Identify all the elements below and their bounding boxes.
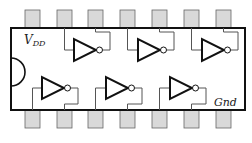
orientation-notch bbox=[11, 58, 25, 86]
inverter-5 bbox=[106, 77, 128, 99]
inverter-4 bbox=[42, 77, 64, 99]
pin-6 bbox=[184, 110, 199, 128]
pin-13 bbox=[57, 10, 72, 28]
pin-3 bbox=[88, 110, 103, 128]
pin-14 bbox=[25, 10, 40, 28]
pin-12 bbox=[88, 10, 103, 28]
pin-10 bbox=[152, 10, 167, 28]
top-pins bbox=[25, 10, 231, 28]
bottom-pins bbox=[25, 110, 231, 128]
vdd-label: VDD bbox=[24, 33, 46, 48]
pin-8 bbox=[216, 10, 231, 28]
pin-4 bbox=[120, 110, 135, 128]
inverter-6-bubble bbox=[193, 85, 199, 91]
pin-11 bbox=[120, 10, 135, 28]
pin-7 bbox=[216, 110, 231, 128]
inverter-1 bbox=[74, 39, 96, 61]
inverter-3 bbox=[202, 39, 224, 61]
inverter-4-bubble bbox=[65, 85, 71, 91]
pin-9 bbox=[184, 10, 199, 28]
inverter-2-bubble bbox=[161, 47, 167, 53]
inverter-3-bubble bbox=[225, 47, 231, 53]
pin-5 bbox=[152, 110, 167, 128]
top-inverters bbox=[74, 39, 231, 61]
pin-2 bbox=[57, 110, 72, 128]
pin-1 bbox=[25, 110, 40, 128]
bottom-inverters bbox=[42, 77, 199, 99]
ic-diagram: VDD Gnd bbox=[0, 0, 252, 143]
gnd-label: Gnd bbox=[214, 96, 237, 109]
inverter-6 bbox=[170, 77, 192, 99]
inverter-1-bubble bbox=[97, 47, 103, 53]
inverter-5-bubble bbox=[129, 85, 135, 91]
inverter-2 bbox=[138, 39, 160, 61]
